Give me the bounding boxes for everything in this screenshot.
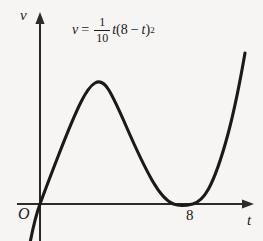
x-axis-label: t bbox=[247, 213, 251, 228]
equation-lhs: v bbox=[72, 23, 78, 37]
velocity-time-graph-figure: v t O 8 v = 1 10 t ( 8 − t ) 2 bbox=[0, 0, 263, 241]
equation-label: v = 1 10 t ( 8 − t ) 2 bbox=[72, 16, 155, 44]
y-axis-label: v bbox=[20, 8, 27, 23]
equation-minus: − bbox=[131, 23, 139, 37]
fraction-denominator: 10 bbox=[94, 32, 110, 45]
equation-fraction: 1 10 bbox=[94, 16, 110, 44]
equation-constant-8: 8 bbox=[121, 23, 128, 37]
x-tick-label-8: 8 bbox=[186, 208, 194, 223]
origin-label: O bbox=[18, 206, 30, 222]
curve-v-of-t bbox=[31, 53, 246, 241]
t-axis bbox=[17, 199, 254, 208]
v-axis-arrowhead bbox=[35, 12, 44, 24]
fraction-numerator: 1 bbox=[97, 16, 107, 29]
equation-equals: = bbox=[81, 23, 89, 37]
equation-exponent: 2 bbox=[150, 26, 155, 35]
t-axis-arrowhead bbox=[242, 199, 254, 208]
